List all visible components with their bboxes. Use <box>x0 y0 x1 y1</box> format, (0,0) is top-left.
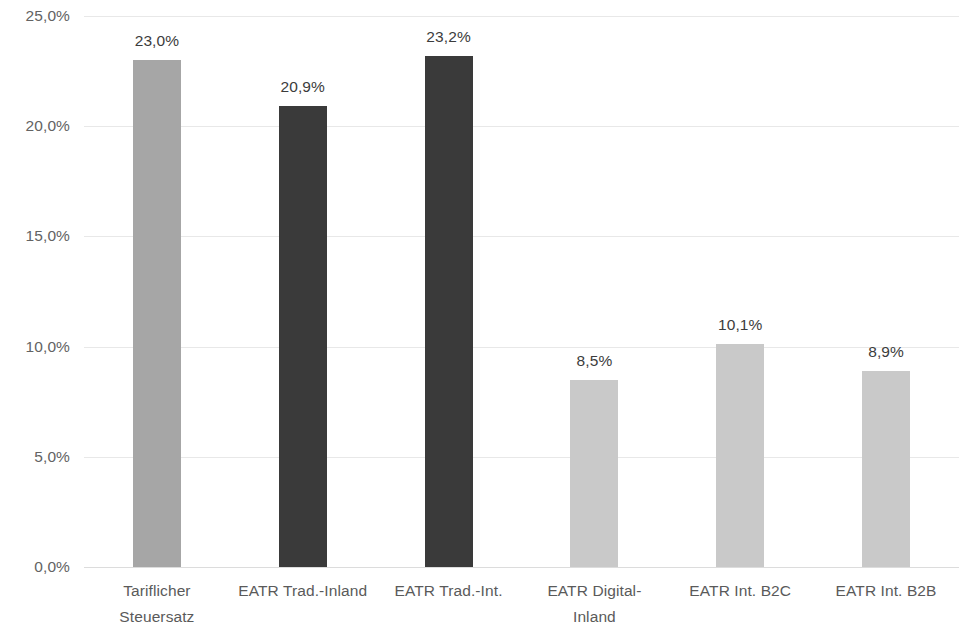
gridline-50 <box>84 457 959 458</box>
x-axis-category-label: EATR Int. B2B <box>813 578 959 604</box>
bar[interactable] <box>279 106 327 567</box>
bar[interactable] <box>570 380 618 567</box>
bar-value-label: 20,9% <box>243 78 363 96</box>
bar-value-label: 10,1% <box>680 316 800 334</box>
gridline-200 <box>84 126 959 127</box>
y-axis-tick-label: 15,0% <box>0 227 70 245</box>
y-axis-tick-label: 25,0% <box>0 7 70 25</box>
bar-value-label: 23,2% <box>389 28 509 46</box>
y-axis-tick-label: 5,0% <box>0 448 70 466</box>
bar[interactable] <box>425 56 473 567</box>
x-axis-category-label: EATR Trad.-Inland <box>230 578 376 604</box>
y-axis-tick-label: 20,0% <box>0 117 70 135</box>
x-axis-category-label: Tariflicher Steuersatz <box>84 578 230 630</box>
y-axis-tick-label: 0,0% <box>0 558 70 576</box>
plot-area: 23,0%20,9%23,2%8,5%10,1%8,9% <box>84 16 959 567</box>
x-axis-category-label: EATR Trad.-Int. <box>376 578 522 604</box>
bar-value-label: 8,5% <box>534 352 654 370</box>
x-axis-category-label: EATR Int. B2C <box>667 578 813 604</box>
x-axis-category-label: EATR Digital- Inland <box>522 578 668 630</box>
bar[interactable] <box>133 60 181 567</box>
gridline-150 <box>84 236 959 237</box>
bar-chart: 23,0%20,9%23,2%8,5%10,1%8,9% 25,0%20,0%1… <box>0 0 959 644</box>
gridline-00 <box>84 567 959 568</box>
bar[interactable] <box>862 371 910 567</box>
y-axis-tick-label: 10,0% <box>0 338 70 356</box>
bar-value-label: 8,9% <box>826 343 946 361</box>
bar[interactable] <box>716 344 764 567</box>
gridline-250 <box>84 16 959 17</box>
bar-value-label: 23,0% <box>97 32 217 50</box>
